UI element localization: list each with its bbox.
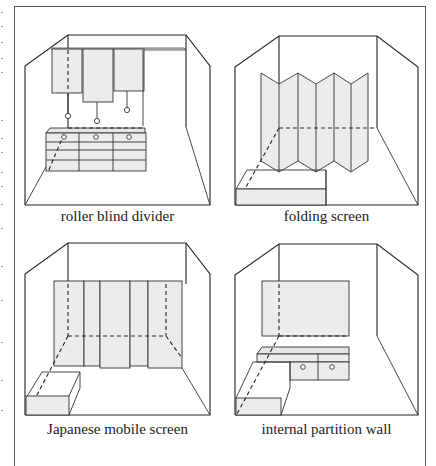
panel-internal-partition-wall [235, 244, 418, 415]
caption-folding-screen: folding screen [235, 208, 418, 225]
caption-internal-partition-wall: internal partition wall [235, 421, 418, 438]
panel-folding-screen [235, 36, 418, 205]
panel-roller-blind-divider [25, 35, 210, 205]
caption-japanese-mobile-screen: Japanese mobile screen [25, 421, 210, 438]
caption-roller-blind-divider: roller blind divider [25, 208, 210, 225]
panel-japanese-mobile-screen [25, 243, 210, 415]
